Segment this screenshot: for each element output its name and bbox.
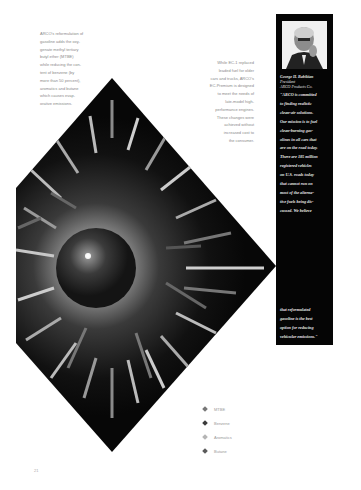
quote-line: cussed. We believe bbox=[280, 207, 332, 216]
quote-line: registered vehicles bbox=[280, 162, 332, 171]
person-portrait-icon bbox=[282, 21, 327, 69]
legend-item-benzene: Benzene bbox=[203, 416, 232, 430]
diamond-marker-icon bbox=[202, 434, 208, 440]
quote-line: clean-burning gas- bbox=[280, 127, 332, 136]
text-line: leaded fuel for older bbox=[188, 67, 254, 75]
text-line: butyl ether (MTBE) bbox=[40, 53, 90, 61]
legend-item-mtbe: MTBE bbox=[203, 402, 232, 416]
page-number: 21 bbox=[34, 468, 38, 473]
text-line: genate methyl tertiary bbox=[40, 46, 90, 54]
quote-line: tive fuels being dis- bbox=[280, 198, 332, 207]
quote-line: on U.S. roads today bbox=[280, 171, 332, 180]
pull-quote: "ARCO is committed to finding realistic … bbox=[280, 91, 332, 216]
diamond-illustration bbox=[16, 78, 276, 452]
legend-label: MTBE bbox=[214, 407, 225, 412]
quote-line: that cannot run on bbox=[280, 180, 332, 189]
text-line: ARCO's reformulation of bbox=[40, 30, 90, 38]
pull-quote-continued: that reformulated gasoline is the best o… bbox=[280, 306, 332, 342]
portrait-caption: George H. Babikian President ARCO Produc… bbox=[280, 74, 330, 89]
quote-line: There are 185 million bbox=[280, 153, 332, 162]
quote-line: gasoline is the best bbox=[280, 315, 332, 324]
quote-line: vehicular emissions." bbox=[280, 333, 332, 342]
quote-line: most of the alterna- bbox=[280, 189, 332, 198]
legend-label: Aromatics bbox=[214, 435, 232, 440]
quote-line: olines in all cars that bbox=[280, 136, 332, 145]
text-line: while reducing the con- bbox=[40, 61, 90, 69]
diamond-marker-icon bbox=[202, 420, 208, 426]
illustration-legend: MTBE Benzene Aromatics Butane bbox=[203, 402, 232, 458]
legend-item-butane: Butane bbox=[203, 444, 232, 458]
quote-line: to finding realistic bbox=[280, 100, 332, 109]
quote-line: are on the road today. bbox=[280, 144, 332, 153]
diamond-marker-icon bbox=[202, 448, 208, 454]
quote-line: "ARCO is committed bbox=[280, 91, 332, 100]
quote-line: Our mission is to fuel bbox=[280, 118, 332, 127]
legend-label: Butane bbox=[214, 449, 227, 454]
diamond-marker-icon bbox=[202, 406, 208, 412]
text-line: While EC-1 replaced bbox=[188, 59, 254, 67]
text-line: gasoline adds the oxy- bbox=[40, 38, 90, 46]
text-line: tent of benzene (by bbox=[40, 69, 90, 77]
legend-label: Benzene bbox=[214, 421, 230, 426]
quote-line: option for reducing bbox=[280, 324, 332, 333]
legend-item-aromatics: Aromatics bbox=[203, 430, 232, 444]
sphere-arrows-graphic bbox=[16, 78, 276, 452]
portrait-photo bbox=[282, 21, 327, 69]
quote-line: clean-air solutions. bbox=[280, 109, 332, 118]
quote-line: that reformulated bbox=[280, 306, 332, 315]
person-company: ARCO Products Co. bbox=[280, 84, 330, 89]
quote-sidebar: George H. Babikian President ARCO Produc… bbox=[276, 14, 333, 345]
